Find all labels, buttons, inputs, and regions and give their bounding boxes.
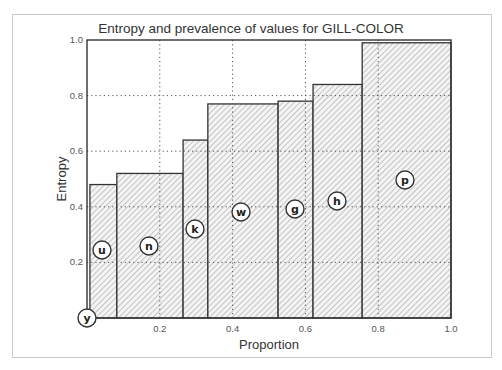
svg-text:p: p — [401, 174, 409, 187]
chart-title: Entropy and prevalence of values for GIL… — [98, 21, 404, 36]
svg-text:w: w — [236, 206, 246, 219]
value-label-p: p — [396, 171, 414, 189]
value-label-w: w — [232, 203, 250, 221]
svg-text:h: h — [333, 195, 341, 208]
y-tick-label: 0.8 — [70, 90, 83, 101]
x-tick-label: 0.8 — [372, 323, 385, 334]
value-label-g: g — [286, 200, 304, 218]
value-label-u: u — [93, 241, 111, 259]
x-tick-label: 0.2 — [153, 323, 166, 334]
y-tick-label: 0.4 — [70, 201, 83, 212]
x-tick-label: 0.4 — [226, 323, 239, 334]
svg-text:y: y — [83, 312, 90, 325]
svg-text:n: n — [145, 240, 153, 253]
y-axis-label: Entropy — [54, 156, 69, 201]
value-label-y: y — [78, 309, 96, 327]
entropy-chart: Entropy and prevalence of values for GIL… — [0, 0, 502, 370]
y-tick-labels: 0.20.40.60.81.0 — [70, 34, 83, 267]
x-tick-label: 1.0 — [444, 323, 457, 334]
y-tick-label: 0.6 — [70, 145, 83, 156]
x-tick-label: 0.6 — [299, 323, 312, 334]
x-tick-labels: 0.20.40.60.81.0 — [153, 323, 457, 334]
svg-text:u: u — [98, 244, 106, 257]
y-tick-label: 1.0 — [70, 34, 83, 45]
value-label-h: h — [328, 192, 346, 210]
x-axis-label: Proportion — [239, 337, 299, 352]
y-tick-label: 0.2 — [70, 256, 83, 267]
value-label-n: n — [140, 237, 158, 255]
svg-text:k: k — [191, 223, 199, 236]
svg-text:g: g — [291, 203, 299, 216]
value-label-k: k — [186, 220, 204, 238]
